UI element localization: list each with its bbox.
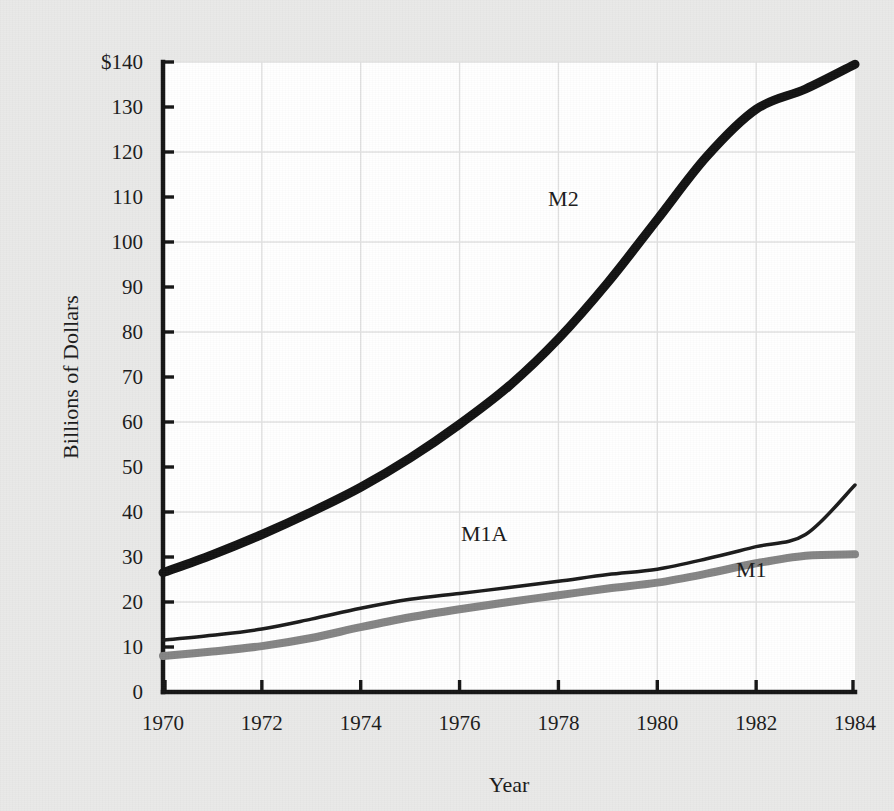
x-axis-tick-label: 1970: [142, 711, 184, 735]
y-axis-tick-label: 90: [122, 275, 143, 299]
series-label-m1a: M1A: [461, 521, 508, 546]
x-axis-tick-label: 1984: [834, 711, 877, 735]
y-axis-tick-label: 50: [122, 455, 143, 479]
series-label-m2: M2: [548, 186, 579, 211]
y-axis-tick-label: 0: [133, 680, 144, 704]
y-axis-tick-label: 130: [112, 95, 144, 119]
x-axis-tick-label: 1978: [537, 711, 579, 735]
x-axis-tick-label: 1982: [735, 711, 777, 735]
y-axis-tick-label: 60: [122, 410, 143, 434]
x-axis-tick-label: 1980: [636, 711, 678, 735]
x-axis-tick-label: 1974: [340, 711, 383, 735]
chart-figure: 0102030405060708090100110120130$14019701…: [0, 0, 894, 811]
series-label-m1: M1: [736, 557, 767, 582]
y-axis-tick-label: 100: [112, 230, 144, 254]
y-axis-tick-label: 10: [122, 635, 143, 659]
y-axis-tick-label: 70: [122, 365, 143, 389]
y-axis-tick-label: $140: [101, 50, 143, 74]
x-axis-title: Year: [489, 772, 530, 797]
money-supply-line-chart: 0102030405060708090100110120130$14019701…: [0, 0, 894, 811]
y-axis-tick-label: 120: [112, 140, 144, 164]
plot-area-background: [163, 62, 855, 692]
y-axis-tick-label: 20: [122, 590, 143, 614]
y-axis-tick-label: 110: [112, 185, 143, 209]
y-axis-title: Billions of Dollars: [58, 295, 83, 459]
x-axis-tick-label: 1972: [241, 711, 283, 735]
x-axis-tick-label: 1976: [439, 711, 481, 735]
y-axis-tick-label: 80: [122, 320, 143, 344]
y-axis-tick-label: 30: [122, 545, 143, 569]
y-axis-tick-label: 40: [122, 500, 143, 524]
